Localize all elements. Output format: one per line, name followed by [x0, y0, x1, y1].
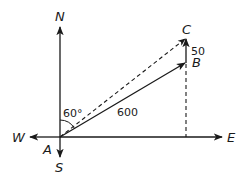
east-label: E: [227, 130, 236, 145]
west-label: W: [12, 130, 26, 145]
vector-AC-resultant: [60, 39, 185, 137]
north-label: N: [55, 9, 65, 24]
point-A-label: A: [42, 142, 52, 157]
magnitude-BC-label: 50: [191, 45, 205, 58]
vector-AB: [60, 63, 185, 137]
vector-diagram: N S W E A B C 60° 600 50: [0, 0, 245, 181]
magnitude-AB-label: 600: [117, 106, 138, 119]
angle-label: 60°: [63, 107, 83, 120]
point-C-label: C: [182, 22, 192, 37]
south-label: S: [55, 160, 63, 175]
